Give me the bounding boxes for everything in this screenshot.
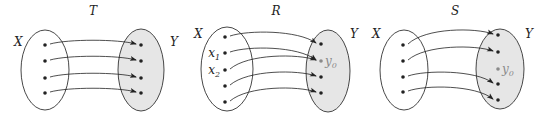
mapping-title: R	[270, 4, 280, 18]
domain-set-X	[380, 30, 428, 110]
codomain-point	[139, 91, 143, 95]
codomain-point	[496, 98, 500, 102]
domain-point	[401, 43, 405, 47]
codomain-label: Y	[525, 27, 534, 41]
domain-point	[43, 91, 47, 95]
domain-point	[43, 76, 47, 80]
domain-point-label: x1	[208, 46, 220, 62]
codomain-point-highlighted	[319, 59, 323, 63]
codomain-point	[496, 33, 500, 37]
domain-point	[223, 51, 227, 55]
mapping-arrow	[230, 48, 316, 60]
mapping-title: T	[89, 4, 98, 18]
diagram-R: RXYx1x2y0	[193, 4, 359, 112]
diagram-T: TXY	[13, 4, 179, 111]
domain-label: X	[371, 27, 381, 41]
codomain-point	[496, 82, 500, 86]
domain-point	[223, 35, 227, 39]
diagram-S: SXYy0	[371, 4, 534, 110]
codomain-set-Y	[118, 29, 164, 111]
codomain-point	[496, 50, 500, 54]
codomain-point	[319, 91, 323, 95]
codomain-set-Y	[476, 29, 524, 109]
codomain-point	[319, 42, 323, 46]
domain-point	[223, 84, 227, 88]
mapping-arrow	[230, 72, 316, 85]
codomain-point	[139, 59, 143, 63]
codomain-point	[319, 75, 323, 79]
mapping-arrow	[230, 88, 316, 101]
mapping-arrow	[230, 56, 316, 69]
domain-label: X	[193, 27, 203, 41]
domain-point	[223, 100, 227, 104]
mapping-arrow	[230, 32, 316, 43]
domain-point	[223, 68, 227, 72]
codomain-label: Y	[170, 35, 179, 49]
domain-point-label: x2	[208, 63, 220, 79]
domain-point	[401, 90, 405, 94]
domain-point	[401, 59, 405, 63]
mapping-title: S	[451, 4, 459, 18]
domain-point	[43, 43, 47, 47]
domain-point	[401, 75, 405, 79]
codomain-point	[139, 43, 143, 47]
codomain-set-Y	[306, 30, 350, 112]
codomain-point-highlighted	[496, 67, 500, 71]
codomain-point	[139, 76, 143, 80]
domain-point	[43, 59, 47, 63]
function-mapping-diagrams: TXYRXYx1x2y0SXYy0	[0, 0, 541, 120]
codomain-label: Y	[350, 27, 359, 41]
domain-label: X	[13, 35, 23, 49]
